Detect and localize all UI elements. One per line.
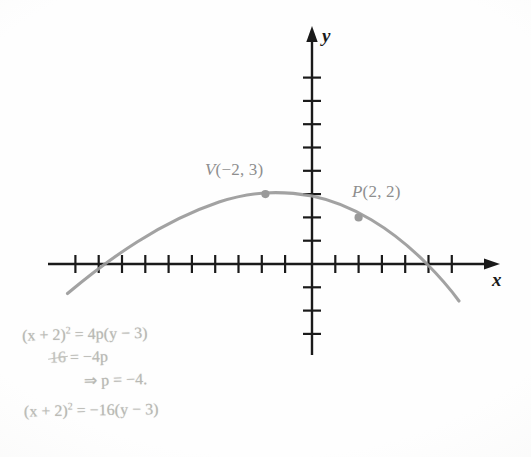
vertex-label-var: V — [205, 160, 216, 179]
parabola-curve — [68, 193, 460, 301]
handwritten-work: (x + 2)2 = 4p(y − 3) 16 = −4p ⇒ p = −4. … — [22, 322, 322, 442]
handwritten-line-3: ⇒ p = −4. — [84, 369, 148, 390]
hw2-post: = −4p — [66, 348, 108, 366]
point-p-label: P(2, 2) — [352, 182, 401, 202]
hw1-pre: (x + 2) — [22, 326, 66, 344]
hw2-struck-value: 16 — [50, 348, 66, 366]
point-p-label-var: P — [352, 182, 363, 201]
hw4-post: = −16(y − 3) — [73, 400, 159, 418]
point-marker-p — [355, 213, 363, 221]
x-axis-label: x — [492, 269, 502, 291]
point-p-label-coords: (2, 2) — [363, 182, 401, 201]
hw1-post: = 4p(y − 3) — [71, 324, 148, 343]
worksheet-page: y x V(−2, 3) P(2, 2) (x + 2)2 = 4p(y − 3… — [0, 0, 531, 457]
handwritten-line-2: 16 = −4p — [50, 348, 108, 367]
handwritten-line-1: (x + 2)2 = 4p(y − 3) — [22, 323, 148, 345]
vertex-label: V(−2, 3) — [205, 160, 263, 180]
handwritten-line-4: (x + 2)2 = −16(y − 3) — [24, 399, 159, 421]
vertex-label-coords: (−2, 3) — [216, 160, 264, 179]
y-axis — [306, 26, 317, 355]
hw4-pre: (x + 2) — [24, 402, 68, 420]
y-axis-label: y — [322, 25, 330, 47]
point-marker-v — [261, 190, 269, 198]
